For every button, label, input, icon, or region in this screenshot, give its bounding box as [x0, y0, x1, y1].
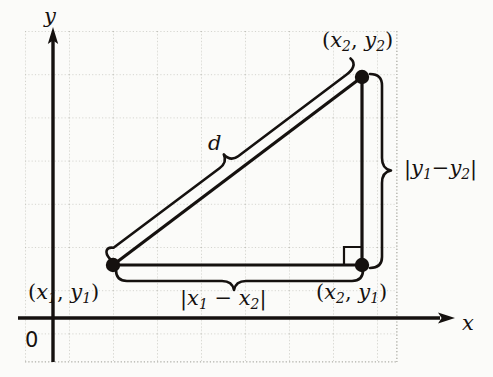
vertical-leg-bar-close: |	[470, 156, 477, 180]
vertical-leg-var1: y	[411, 156, 423, 180]
vertical-leg-sub2: 2	[461, 166, 470, 182]
vertical-leg-var2: y	[449, 156, 461, 180]
horizontal-leg-var1: x	[187, 286, 199, 310]
point-label-x2-y1-open: (	[316, 280, 324, 304]
point-label-x1-y1-open: (	[28, 280, 36, 304]
vertex-dot-lower-left	[106, 258, 120, 272]
point-label-x2-y2-comma: ,	[351, 28, 358, 52]
point-label-x2-y1: (x2, y1)	[316, 282, 387, 303]
horizontal-leg-var2: x	[239, 286, 251, 310]
point-label-x1-y1-var2: y	[70, 280, 82, 304]
point-label-x2-y2-close: )	[385, 28, 393, 52]
point-label-x2-y2-var1: x	[330, 28, 342, 52]
point-label-x1-y1-sub2: 1	[82, 290, 91, 306]
point-label-x2-y2-open: (	[322, 28, 330, 52]
point-label-x2-y2-sub2: 2	[376, 38, 385, 54]
horizontal-leg-minus: −	[214, 286, 232, 310]
vertical-leg-label: |y1−y2|	[404, 158, 477, 179]
point-label-x1-y1: (x1, y1)	[28, 282, 99, 303]
horizontal-leg-sub1: 1	[199, 296, 208, 312]
vertex-dot-upper-right	[355, 70, 369, 84]
figure-canvas	[0, 0, 493, 377]
point-label-x2-y2-sub1: 2	[342, 38, 351, 54]
point-label-x1-y1-comma: ,	[57, 280, 64, 304]
graph-grid	[25, 31, 397, 362]
point-label-x2-y2-var2: y	[364, 28, 376, 52]
vertex-dot-lower-right	[355, 258, 369, 272]
point-label-x2-y1-var1: x	[324, 280, 336, 304]
point-label-x2-y1-close: )	[379, 280, 387, 304]
distance-formula-figure: (x2, y2) (x1, y1) (x2, y1) |y1−y2| |x1 −…	[0, 0, 493, 377]
point-label-x2-y1-sub2: 1	[370, 290, 379, 306]
point-label-x1-y1-var1: x	[36, 280, 48, 304]
y-axis-label: y	[44, 6, 56, 27]
point-label-x2-y2: (x2, y2)	[322, 30, 393, 51]
horizontal-leg-bar-close: |	[259, 286, 266, 310]
vertical-leg-sub1: 1	[423, 166, 432, 182]
hypotenuse-label: d	[208, 133, 221, 154]
origin-label: 0	[25, 330, 38, 351]
vertical-leg-minus: −	[432, 156, 450, 180]
point-label-x2-y1-comma: ,	[345, 280, 352, 304]
horizontal-leg-label: |x1 − x2|	[180, 288, 266, 309]
point-label-x1-y1-close: )	[91, 280, 99, 304]
x-axis-label: x	[462, 313, 474, 334]
point-label-x1-y1-sub1: 1	[48, 290, 57, 306]
point-label-x2-y1-sub1: 2	[336, 290, 345, 306]
point-label-x2-y1-var2: y	[358, 280, 370, 304]
